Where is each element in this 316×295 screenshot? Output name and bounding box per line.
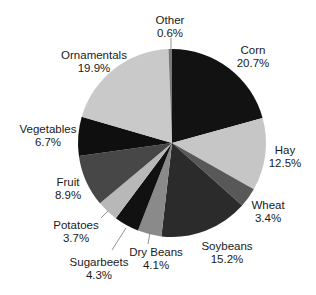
slice-label-name: Fruit: [55, 176, 81, 189]
slice-label-percent: 12.5%: [269, 157, 302, 170]
slice-label-name: Wheat: [251, 199, 284, 212]
slice-label-percent: 0.6%: [156, 27, 185, 40]
slice-label-percent: 19.9%: [61, 62, 127, 75]
slice-label-vegetables: Vegetables6.7%: [20, 123, 77, 149]
slice-label-name: Other: [156, 14, 185, 27]
slice-label-name: Corn: [237, 44, 270, 57]
slice-label-percent: 4.1%: [129, 259, 183, 272]
pie-slices: [78, 49, 266, 237]
slice-label-name: Ornamentals: [61, 49, 127, 62]
slice-label-soybeans: Soybeans15.2%: [201, 240, 252, 266]
slice-label-hay: Hay12.5%: [269, 144, 302, 170]
slice-label-wheat: Wheat3.4%: [251, 199, 284, 225]
slice-label-name: Soybeans: [201, 240, 252, 253]
leader-line-sugarbeets: [112, 228, 126, 250]
slice-label-percent: 8.9%: [55, 189, 81, 202]
leader-line-potatoes: [101, 211, 108, 218]
slice-label-name: Dry Beans: [129, 246, 183, 259]
slice-label-dry-beans: Dry Beans4.1%: [129, 246, 183, 272]
slice-label-name: Sugarbeets: [70, 256, 129, 269]
slice-label-name: Hay: [269, 144, 302, 157]
slice-label-ornamentals: Ornamentals19.9%: [61, 49, 127, 75]
slice-label-corn: Corn20.7%: [237, 44, 270, 70]
slice-label-percent: 15.2%: [201, 253, 252, 266]
slice-label-percent: 6.7%: [20, 136, 77, 149]
slice-label-sugarbeets: Sugarbeets4.3%: [70, 256, 129, 282]
slice-label-name: Vegetables: [20, 123, 77, 136]
slice-label-name: Potatoes: [53, 219, 98, 232]
slice-label-percent: 4.3%: [70, 269, 129, 282]
slice-label-other: Other0.6%: [156, 14, 185, 40]
slice-label-percent: 20.7%: [237, 57, 270, 70]
leader-line-dry-beans: [148, 233, 150, 244]
slice-label-potatoes: Potatoes3.7%: [53, 219, 98, 245]
slice-label-percent: 3.7%: [53, 232, 98, 245]
slice-label-fruit: Fruit8.9%: [55, 176, 81, 202]
slice-label-percent: 3.4%: [251, 212, 284, 225]
